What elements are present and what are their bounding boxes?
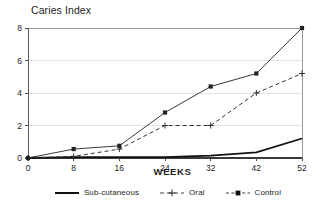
legend-item-oral: Oral xyxy=(159,188,205,197)
legend-item-sub-cutaneous: Sub-cutaneous xyxy=(54,188,139,197)
legend-label-control: Control xyxy=(255,188,282,197)
data-point-control xyxy=(26,156,30,160)
y-tick-label: 4 xyxy=(17,88,22,98)
data-point-control xyxy=(117,144,121,148)
y-tick-label: 0 xyxy=(17,153,22,163)
y-tick-label: 8 xyxy=(17,23,22,33)
y-tick-label: 6 xyxy=(17,56,22,66)
plot-area: 02468081624324252 xyxy=(0,0,335,209)
legend-item-control: Control xyxy=(225,188,282,197)
data-point-control xyxy=(163,110,167,114)
chart-legend: Sub-cutaneous Oral Control xyxy=(0,188,335,197)
data-point-control xyxy=(209,84,213,88)
legend-key-oral xyxy=(159,188,185,197)
data-point-control xyxy=(72,147,76,151)
y-tick-label: 2 xyxy=(17,121,22,131)
data-point-control xyxy=(254,71,258,75)
caries-index-chart: Caries Index 02468081624324252 WEEKS Sub… xyxy=(0,0,335,209)
legend-key-control xyxy=(225,188,251,197)
legend-label-oral: Oral xyxy=(189,188,205,197)
legend-key-sub-cutaneous xyxy=(54,188,80,197)
x-axis-label: WEEKS xyxy=(0,166,335,177)
x-axis-label-text: WEEKS xyxy=(154,166,192,177)
data-point-control xyxy=(300,26,304,30)
legend-label-sub-cutaneous: Sub-cutaneous xyxy=(84,188,139,197)
